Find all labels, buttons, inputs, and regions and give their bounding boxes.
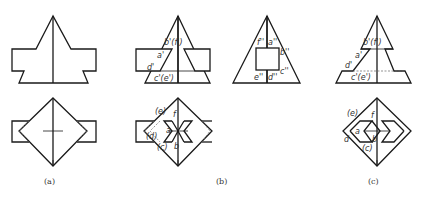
label-e-dprime: e'' (254, 73, 263, 82)
label-c-a-top: a (355, 127, 360, 136)
label-c-top: (c) (157, 143, 168, 152)
label-c-dprime: c'' (280, 67, 289, 76)
label-a-top: a (166, 126, 171, 135)
panel-b-front-view: b'(f') a' d' c'(e') (136, 16, 210, 83)
label-b-top: b (174, 142, 179, 151)
caption-b: (b) (216, 177, 227, 186)
label-c-b-top: b (372, 135, 377, 144)
panel-a (12, 16, 96, 166)
label-a-prime: a' (157, 51, 164, 60)
panel-b-side-view: f'' a'' b'' e'' d'' c'' (233, 16, 300, 83)
label-c-a-prime: a' (355, 51, 362, 60)
label-d-top: (d) (146, 132, 157, 141)
panel-a-front-view (12, 16, 96, 83)
label-c-e-top: (e) (347, 109, 358, 118)
label-d-prime: d' (147, 63, 154, 72)
label-f-dprime: f'' (257, 38, 264, 47)
label-c-e-prime: c'(e') (154, 74, 174, 83)
panel-c-top-view: (e) f a d b (c) (343, 98, 411, 166)
label-c-b-f-prime: b'(f') (363, 38, 382, 47)
panel-b-top-view: (e) f a (d) (c) b (136, 98, 212, 166)
panel-b: b'(f') a' d' c'(e') f'' a'' b'' e'' d'' … (136, 16, 300, 166)
label-e-top: (e) (155, 107, 166, 116)
label-c-c-top: (c) (362, 144, 373, 153)
label-c-d-prime: d' (345, 61, 352, 70)
projection-drawing: b'(f') a' d' c'(e') f'' a'' b'' e'' d'' … (0, 0, 422, 197)
panel-c-front-view: b'(f') a' d' c'(e') (336, 16, 411, 83)
panel-a-top-view (12, 98, 96, 166)
panel-c: b'(f') a' d' c'(e') (e) f a d b (c) (336, 16, 411, 166)
caption-a: (a) (44, 177, 55, 186)
label-a-dprime: a'' (268, 38, 277, 47)
label-c-f-top: f (371, 111, 375, 120)
label-c-c-e-prime: c'(e') (351, 73, 371, 82)
label-d-dprime: d'' (268, 73, 277, 82)
label-b-f-prime: b'(f') (164, 38, 183, 47)
label-b-dprime: b'' (280, 48, 289, 57)
caption-c: (c) (368, 177, 379, 186)
label-f-top: f (173, 110, 177, 119)
